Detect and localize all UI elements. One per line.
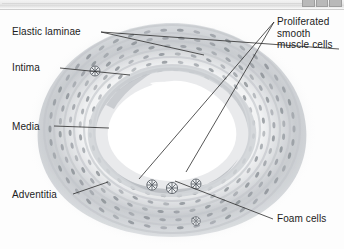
maximize-button[interactable] (316, 0, 329, 7)
foam-cell (147, 180, 157, 190)
foam-cell (90, 66, 100, 76)
foam-cell (191, 179, 201, 189)
window-controls[interactable] (302, 0, 342, 7)
toolbar-divider (2, 3, 302, 4)
close-button[interactable] (329, 0, 342, 7)
label-media: Media (12, 121, 40, 133)
label-proliferated-smooth-muscle-cells: Proliferated smooth muscle cells (277, 16, 333, 51)
foam-cell (166, 182, 177, 193)
figure-canvas: Elastic laminae Intima Media Adventitia … (0, 0, 344, 249)
foam-cell-outer (192, 217, 201, 226)
label-foam-cells: Foam cells (277, 213, 326, 225)
label-intima: Intima (12, 62, 40, 74)
label-adventitia: Adventitia (12, 189, 57, 201)
label-elastic-laminae: Elastic laminae (12, 26, 81, 38)
minimize-button[interactable] (302, 0, 315, 7)
